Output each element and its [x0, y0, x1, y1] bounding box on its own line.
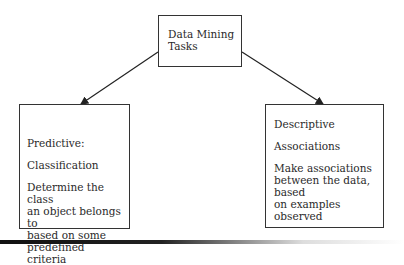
node-task: Classification	[27, 159, 125, 171]
bottom-divider	[0, 240, 404, 244]
node-predictive: Predictive: Classification Determine the…	[19, 104, 130, 229]
root-label-line-1: Data Mining	[168, 28, 241, 40]
node-task: Associations	[274, 140, 379, 152]
node-description-line: between the data, based	[274, 174, 379, 198]
arrow-to-descriptive	[242, 52, 323, 104]
root-label-line-2: Tasks	[168, 40, 241, 52]
node-title: Descriptive	[274, 118, 379, 130]
node-description-line: on examples observed	[274, 198, 379, 222]
root-node-data-mining-tasks: Data Mining Tasks	[158, 15, 242, 67]
node-description-line: an object belongs to	[27, 205, 125, 229]
arrow-to-predictive	[81, 52, 158, 104]
node-description-line: Make associations	[274, 162, 379, 174]
node-title: Predictive:	[27, 137, 125, 149]
node-description-line: Determine the class	[27, 181, 125, 205]
node-descriptive: Descriptive Associations Make associatio…	[265, 104, 384, 228]
node-description-line: predefined criteria	[27, 241, 125, 265]
